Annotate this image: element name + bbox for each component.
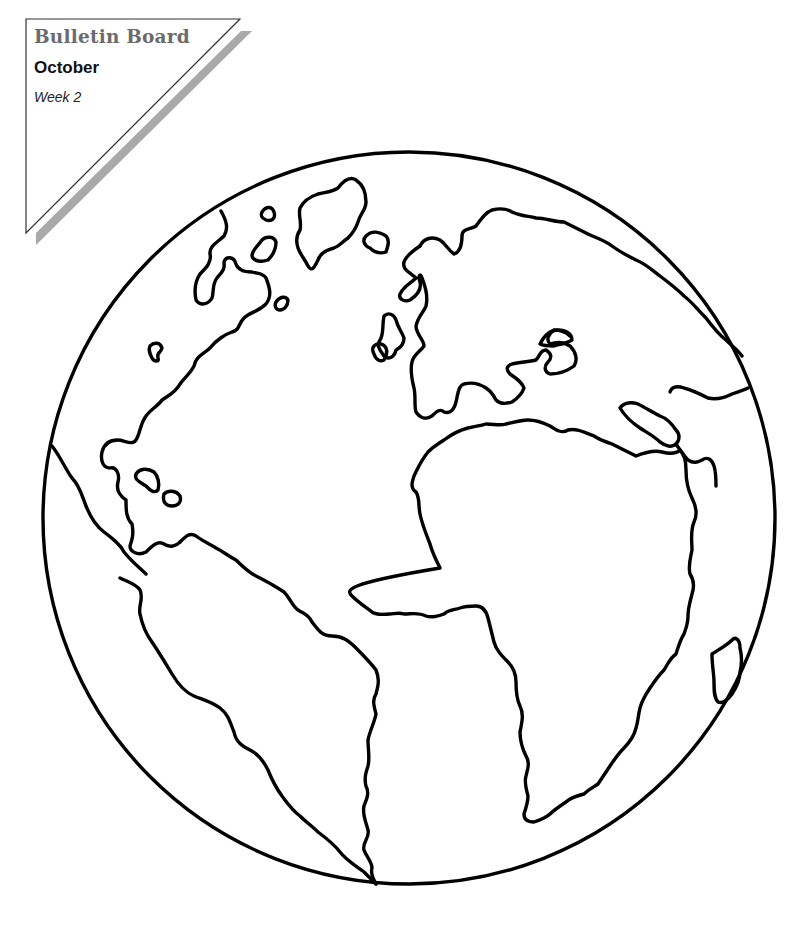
globe [43, 152, 775, 884]
great-lakes-island [149, 343, 162, 361]
hispaniola [163, 491, 180, 506]
europe-coast [420, 209, 742, 356]
central-america-west-coast [52, 446, 146, 574]
north-america-coast [101, 211, 269, 554]
arctic-island-3 [364, 232, 388, 253]
middle-east-coast [620, 403, 679, 446]
africa-coast [350, 420, 697, 822]
page-title: Bulletin Board [34, 26, 190, 48]
south-america-west-coast [120, 578, 376, 884]
header: Bulletin Board October Week 2 [34, 26, 190, 106]
page-artwork [0, 0, 797, 941]
month-label: October [34, 58, 190, 78]
cuba [136, 469, 159, 491]
arctic-island-2 [252, 237, 276, 261]
great-britain [378, 314, 404, 358]
arabia-coast [670, 387, 748, 486]
south-america-coast [180, 534, 378, 884]
greenland [297, 178, 366, 268]
week-label: Week 2 [34, 88, 190, 106]
arctic-island-1 [261, 208, 274, 221]
globe-outline [43, 152, 775, 884]
hudson-island [275, 297, 288, 310]
madagascar [712, 638, 742, 702]
